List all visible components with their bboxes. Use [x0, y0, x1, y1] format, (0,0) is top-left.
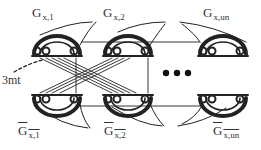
dashed-pointer — [14, 60, 42, 72]
gadget-bottom-1 — [32, 95, 82, 116]
gadget-top-2 — [103, 36, 153, 56]
label-gx2-bottom: Gx,2 — [104, 124, 126, 137]
label-gx1-top: Gx,1 — [32, 6, 54, 19]
label-gx1-bottom: Gx,1 — [18, 124, 40, 137]
label-gx2-top: Gx,2 — [103, 6, 125, 19]
label-gxun-top: Gx,un — [203, 6, 229, 19]
label-gxun-bottom: Gx,un — [213, 124, 239, 137]
ellipsis-icon — [163, 70, 191, 76]
gadget-bottom-un — [198, 95, 248, 116]
gadget-top-1 — [32, 36, 82, 56]
label-3mt: 3mt — [2, 73, 21, 88]
gadget-bottom-2 — [103, 95, 153, 116]
